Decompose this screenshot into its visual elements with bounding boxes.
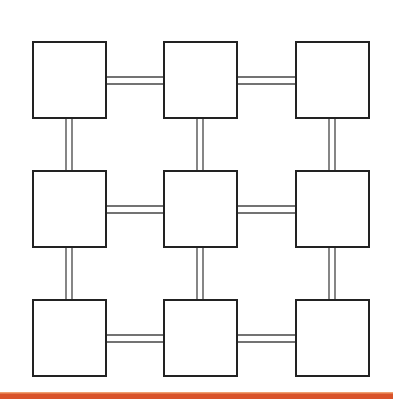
- node-box: [164, 300, 237, 376]
- edge-n13-n23: [329, 118, 335, 171]
- node-box: [33, 300, 106, 376]
- node-n32: [164, 300, 237, 376]
- node-box: [164, 42, 237, 118]
- edge-n12-n22: [197, 118, 203, 171]
- node-n21: [33, 171, 106, 247]
- node-n11: [33, 42, 106, 118]
- edge-n22-n23: [237, 206, 296, 213]
- edge-n22-n32: [197, 247, 203, 300]
- node-n12: [164, 42, 237, 118]
- footer-bar: [0, 392, 393, 399]
- edge-n11-n12: [106, 77, 164, 84]
- edge-n32-n33: [237, 335, 296, 342]
- edge-n21-n31: [66, 247, 72, 300]
- edge-n21-n22: [106, 206, 164, 213]
- node-box: [296, 171, 369, 247]
- footer-bar-highlight: [0, 392, 393, 394]
- nodes-layer: [33, 42, 369, 376]
- footer-bar-fill: [0, 393, 393, 399]
- node-n22: [164, 171, 237, 247]
- node-box: [33, 42, 106, 118]
- node-box: [33, 171, 106, 247]
- node-box: [164, 171, 237, 247]
- edge-n11-n21: [66, 118, 72, 171]
- node-box: [296, 42, 369, 118]
- node-n33: [296, 300, 369, 376]
- node-box: [296, 300, 369, 376]
- node-n31: [33, 300, 106, 376]
- edge-n12-n13: [237, 77, 296, 84]
- node-n23: [296, 171, 369, 247]
- grid-network-diagram: [0, 0, 395, 399]
- edge-n23-n33: [329, 247, 335, 300]
- node-n13: [296, 42, 369, 118]
- edge-n31-n32: [106, 335, 164, 342]
